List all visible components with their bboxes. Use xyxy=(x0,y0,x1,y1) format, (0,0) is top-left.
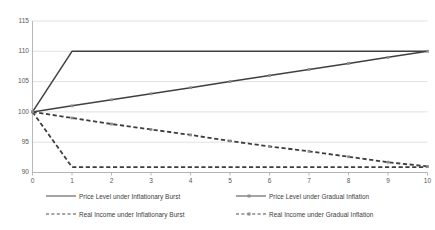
y-tick-label-100: 100 xyxy=(10,108,29,115)
chart-legend: Price Level under Inflationary Burst Rea… xyxy=(0,190,435,230)
series-1-marker-1 xyxy=(71,104,74,107)
series-3-marker-10 xyxy=(426,165,429,168)
data-series xyxy=(31,50,429,168)
x-tick-label-10: 10 xyxy=(418,177,435,184)
series-1-marker-8 xyxy=(347,62,350,65)
series-3-marker-0 xyxy=(31,111,34,114)
series-3-marker-8 xyxy=(347,155,350,158)
x-tick-label-8: 8 xyxy=(339,177,359,184)
x-tick-label-4: 4 xyxy=(181,177,201,184)
legend-swatch-dashed-line-marker-icon xyxy=(236,210,266,218)
legend-swatch-dashed-line-icon xyxy=(46,210,76,218)
series-1-marker-4 xyxy=(189,86,192,89)
legend-swatch-line-icon xyxy=(46,192,76,200)
legend-label: Price Level under Inflationary Burst xyxy=(76,193,180,200)
legend-item-real-income-gradual-inflation[interactable]: Real Income under Gradual Inflation xyxy=(236,210,373,218)
series-3-marker-1 xyxy=(71,117,74,120)
y-tick-label-95: 95 xyxy=(10,138,29,145)
series-3-marker-7 xyxy=(308,150,311,153)
series-1-marker-2 xyxy=(110,98,113,101)
x-tick-label-3: 3 xyxy=(141,177,161,184)
x-tick-label-9: 9 xyxy=(378,177,398,184)
series-1-marker-5 xyxy=(229,80,232,83)
x-tick-label-2: 2 xyxy=(102,177,122,184)
series-1-marker-9 xyxy=(387,56,390,59)
legend-label: Real Income under Gradual Inflation xyxy=(266,211,373,218)
series-3-marker-5 xyxy=(229,140,232,143)
y-tick-label-90: 90 xyxy=(10,168,29,175)
series-3-marker-2 xyxy=(110,123,113,126)
legend-label: Price Level under Gradual Inflation xyxy=(266,193,369,200)
x-tick-label-5: 5 xyxy=(220,177,240,184)
series-1-marker-6 xyxy=(268,74,271,77)
series-line-2 xyxy=(33,112,428,167)
line-chart: 9095100105110115 012345678910 Price Leve… xyxy=(0,0,435,230)
x-tick-label-1: 1 xyxy=(62,177,82,184)
series-3-marker-6 xyxy=(268,145,271,148)
x-tick-label-7: 7 xyxy=(299,177,319,184)
legend-label: Real Income under Inflationary Burst xyxy=(76,211,185,218)
legend-swatch-line-marker-icon xyxy=(236,192,266,200)
series-3-marker-4 xyxy=(189,134,192,137)
series-line-3 xyxy=(33,112,428,167)
x-tick-label-0: 0 xyxy=(23,177,43,184)
legend-item-price-level-inflationary-burst[interactable]: Price Level under Inflationary Burst xyxy=(46,192,180,200)
gridlines xyxy=(33,21,428,173)
series-1-marker-7 xyxy=(308,68,311,71)
series-3-marker-9 xyxy=(387,161,390,164)
y-tick-label-110: 110 xyxy=(10,47,29,54)
series-1-marker-10 xyxy=(426,50,429,53)
y-tick-label-115: 115 xyxy=(10,17,29,24)
series-3-marker-3 xyxy=(150,128,153,131)
legend-item-real-income-inflationary-burst[interactable]: Real Income under Inflationary Burst xyxy=(46,210,185,218)
series-1-marker-3 xyxy=(150,92,153,95)
x-tick-label-6: 6 xyxy=(260,177,280,184)
legend-item-price-level-gradual-inflation[interactable]: Price Level under Gradual Inflation xyxy=(236,192,369,200)
y-tick-label-105: 105 xyxy=(10,77,29,84)
axis-lines xyxy=(33,21,428,173)
